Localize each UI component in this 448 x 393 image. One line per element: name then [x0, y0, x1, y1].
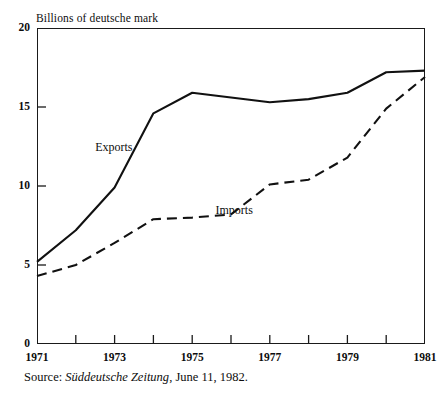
y-tick-label: 5	[4, 258, 30, 270]
series-line-exports	[37, 71, 425, 262]
x-tick-label: 1975	[170, 351, 214, 363]
y-axis-ticks	[37, 107, 46, 265]
chart-figure: Billions of deutsche mark 05101520 19711…	[0, 0, 448, 393]
source-prefix: Source:	[24, 370, 62, 384]
y-tick-label: 20	[4, 21, 30, 33]
series-label-exports: Exports	[95, 140, 132, 155]
y-tick-label: 15	[4, 100, 30, 112]
x-tick-label: 1973	[93, 351, 137, 363]
series-lines	[37, 71, 425, 276]
x-tick-label: 1977	[248, 351, 292, 363]
x-tick-label: 1971	[15, 351, 59, 363]
x-tick-label: 1979	[325, 351, 369, 363]
x-axis-ticks	[76, 335, 386, 344]
series-label-imports: Imports	[215, 203, 252, 218]
x-tick-label: 1981	[403, 351, 447, 363]
series-line-imports	[37, 77, 425, 276]
source-note: Source: Süddeutsche Zeitung, June 11, 19…	[24, 370, 248, 385]
y-tick-label: 0	[4, 337, 30, 349]
y-tick-label: 10	[4, 179, 30, 191]
source-date: , June 11, 1982.	[169, 370, 248, 384]
chart-plot-area	[0, 0, 448, 393]
source-journal-name: Süddeutsche Zeitung	[65, 370, 169, 384]
